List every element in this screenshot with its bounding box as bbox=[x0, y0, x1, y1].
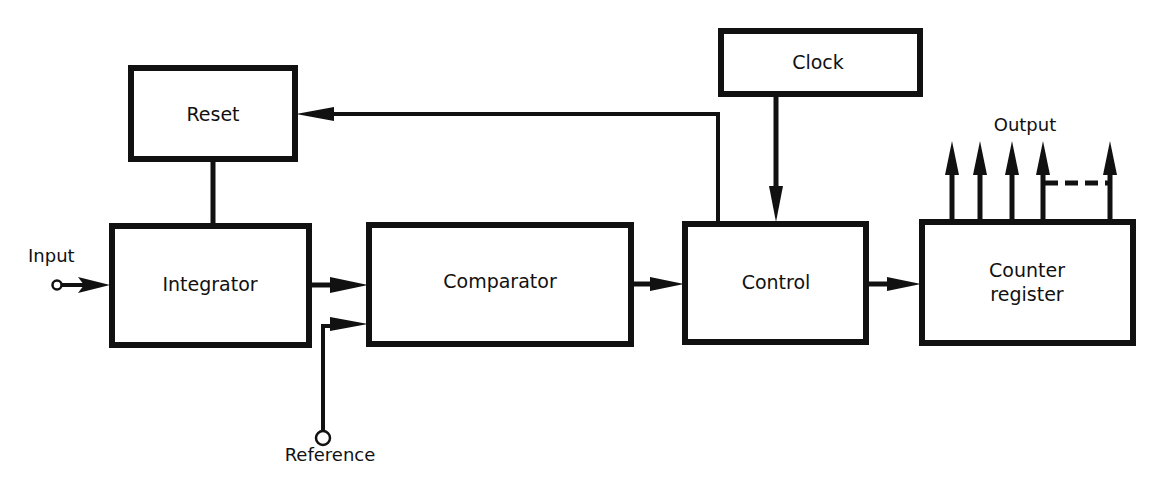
output-arrow-1 bbox=[945, 141, 959, 222]
output-arrow-3 bbox=[1005, 141, 1019, 222]
control-to-reset-feedback-arrow bbox=[296, 107, 718, 224]
input-terminal: Input bbox=[28, 245, 110, 293]
integrator-label: Integrator bbox=[162, 273, 257, 295]
output-arrow-2 bbox=[973, 141, 987, 222]
counter-label-line1: Counter bbox=[989, 259, 1065, 281]
comparator-label: Comparator bbox=[443, 270, 557, 292]
output-bus: Output bbox=[945, 114, 1117, 222]
reference-terminal-circle bbox=[316, 431, 330, 445]
reset-label: Reset bbox=[186, 103, 239, 125]
clock-label: Clock bbox=[792, 51, 844, 73]
control-block: Control bbox=[685, 224, 866, 342]
counter-label-line2: register bbox=[990, 283, 1063, 305]
clock-block: Clock bbox=[721, 31, 920, 94]
input-terminal-circle bbox=[53, 281, 62, 290]
comparator-block: Comparator bbox=[369, 225, 631, 344]
counter-register-block: Counter register bbox=[922, 222, 1133, 343]
reference-wire bbox=[323, 326, 340, 431]
reference-arrowhead bbox=[330, 317, 368, 331]
input-label: Input bbox=[28, 245, 75, 266]
reference-label: Reference bbox=[285, 444, 376, 465]
adc-block-diagram: Reset Integrator Comparator Control Cloc… bbox=[0, 0, 1164, 485]
integrator-to-comparator-arrow bbox=[309, 277, 368, 293]
control-to-counter-arrow bbox=[866, 277, 921, 291]
reset-block: Reset bbox=[131, 68, 295, 159]
output-label: Output bbox=[994, 114, 1057, 135]
control-label: Control bbox=[742, 271, 811, 293]
comparator-to-control-arrow bbox=[631, 277, 684, 291]
integrator-block: Integrator bbox=[112, 226, 309, 345]
clock-to-control-arrow bbox=[769, 94, 783, 222]
